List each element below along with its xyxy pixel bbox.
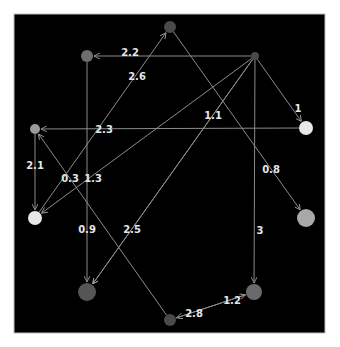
edge-weight-label: 2.2 — [121, 47, 139, 58]
node-G — [297, 209, 315, 227]
edge-weight-label: 2.3 — [95, 124, 113, 135]
edge-weight-label: 3 — [257, 225, 264, 236]
graph-diagram: 2.22.612.31.31.12.50.82.10.930.32.81.2 — [0, 0, 340, 347]
edge-weight-label: 1 — [295, 103, 302, 114]
edge-weight-label: 2.6 — [128, 71, 146, 82]
edge-weight-label: 1.1 — [204, 110, 222, 121]
node-E — [299, 121, 313, 135]
edge-weight-label: 2.1 — [26, 160, 44, 171]
edge-weight-label: 2.5 — [123, 224, 141, 235]
edge-weight-label: 0.3 — [61, 173, 79, 184]
node-J — [164, 314, 176, 326]
node-A — [164, 21, 176, 33]
edge-weight-label: 1.3 — [84, 173, 102, 184]
node-F — [28, 211, 42, 225]
node-D — [30, 124, 40, 134]
edge-weight-label: 0.9 — [78, 224, 96, 235]
edge-weight-label: 2.8 — [185, 308, 203, 319]
edge-weight-label: 1.2 — [223, 295, 241, 306]
node-I — [246, 284, 262, 300]
node-C — [251, 52, 259, 60]
node-H — [78, 283, 96, 301]
edge-weight-label: 0.8 — [262, 164, 280, 175]
node-B — [81, 50, 93, 62]
